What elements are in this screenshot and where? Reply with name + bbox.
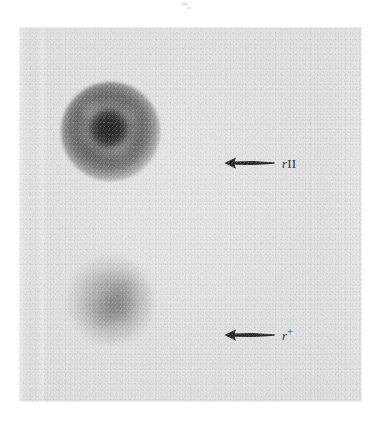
figure-root: rII r+ bbox=[0, 0, 387, 424]
scan-smudge-artifact bbox=[180, 1, 194, 12]
plaque-rII bbox=[61, 82, 160, 181]
annotation-rII-allele: II bbox=[287, 156, 296, 171]
annotation-r-plus-label: r+ bbox=[282, 329, 293, 342]
annotation-rII: rII bbox=[223, 152, 296, 174]
annotation-r-plus-superscript: + bbox=[287, 325, 293, 336]
annotation-r-plus: r+ bbox=[223, 324, 293, 346]
plaque-r-plus bbox=[68, 256, 153, 344]
left-arrow-icon bbox=[223, 328, 275, 342]
left-arrow-icon bbox=[223, 156, 275, 170]
annotation-rII-label: rII bbox=[282, 157, 296, 170]
plate-background-tone bbox=[20, 28, 361, 401]
photograph-plate: rII r+ bbox=[20, 28, 361, 401]
